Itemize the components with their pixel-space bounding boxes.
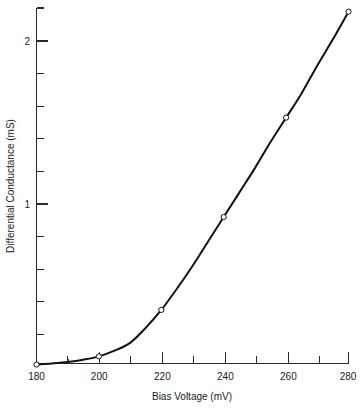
data-point-marker [34, 362, 39, 367]
figure-root: 2 1 180 200 220 240 260 280 [0, 0, 364, 408]
x-tick-label-260: 260 [280, 371, 297, 382]
x-tick-label-220: 220 [154, 371, 171, 382]
x-tick-label-180: 180 [28, 371, 45, 382]
x-axis-title: Bias Voltage (mV) [152, 391, 232, 402]
data-point-marker [96, 354, 101, 359]
y-tick-label-1: 1 [24, 199, 30, 210]
data-point-marker [159, 307, 164, 312]
chart-background [0, 0, 364, 408]
x-tick-label-200: 200 [91, 371, 108, 382]
y-axis-title: Differential Conductance (mS) [5, 119, 16, 253]
y-tick-label-2: 2 [24, 36, 30, 47]
data-point-marker [221, 214, 226, 219]
data-point-marker [284, 115, 289, 120]
x-tick-label-240: 240 [217, 371, 234, 382]
differential-conductance-chart: 2 1 180 200 220 240 260 280 [0, 0, 364, 408]
data-point-marker [346, 9, 351, 14]
x-tick-label-280: 280 [340, 371, 357, 382]
